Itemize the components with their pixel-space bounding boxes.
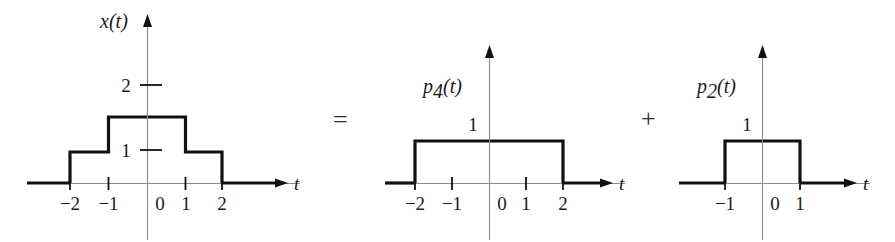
xtick-label-1: 1: [521, 193, 531, 214]
title-subscript: 4: [433, 80, 443, 102]
ytick-label-1: 1: [121, 140, 131, 161]
y-axis-arrow-icon: [143, 14, 152, 27]
x-axis-arrow-icon: [844, 179, 857, 188]
x-axis-label-t: t: [619, 173, 625, 194]
xtick-label-1: 1: [181, 193, 191, 214]
plot-x-of-t: 2 1 −2 −1 0 1 2 x(t) t: [0, 0, 330, 242]
xtick-label-2: 2: [558, 193, 568, 214]
xtick-label-0: 0: [155, 193, 165, 214]
title-name-part: x: [99, 10, 109, 32]
title-paren-close: ): [454, 75, 462, 98]
y-axis-arrow-icon: [485, 45, 494, 58]
xtick-label-0: 0: [770, 193, 780, 214]
title-paren-close: ): [120, 10, 128, 33]
xtick-label-minus1: −1: [715, 193, 735, 214]
signal-decomposition-figure: 2 1 −2 −1 0 1 2 x(t) t = 1 −2 −1 0 1 2: [0, 0, 895, 242]
xtick-label-1: 1: [795, 193, 805, 214]
x-axis-arrow-icon: [600, 179, 613, 188]
title-subscript: 2: [707, 80, 717, 102]
equals-operator: =: [333, 107, 348, 133]
xtick-label-0: 0: [497, 193, 507, 214]
ytick-label-2: 2: [121, 75, 131, 96]
x-axis-label-t: t: [294, 173, 300, 194]
title-paren-close: ): [728, 75, 736, 98]
title-name-part: p: [421, 75, 433, 98]
title-name-part: p: [695, 75, 707, 98]
y-axis-arrow-icon: [758, 45, 767, 58]
plot-title-p4-of-t: p4(t): [421, 75, 462, 102]
xtick-label-minus1: −1: [442, 193, 462, 214]
ytick-label-1: 1: [742, 114, 752, 135]
ytick-label-1: 1: [468, 114, 478, 135]
xtick-label-minus2: −2: [405, 193, 425, 214]
plus-operator: +: [641, 106, 656, 132]
xtick-label-minus2: −2: [60, 193, 80, 214]
xtick-label-2: 2: [217, 193, 227, 214]
xtick-label-minus1: −1: [98, 193, 118, 214]
x-axis-arrow-icon: [275, 179, 288, 188]
plot-title-x-of-t: x(t): [99, 10, 128, 33]
plot-p2-of-t: 1 −1 0 1 p2(t) t: [665, 0, 895, 242]
plot-title-p2-of-t: p2(t): [695, 75, 736, 102]
x-axis-label-t: t: [863, 173, 869, 194]
